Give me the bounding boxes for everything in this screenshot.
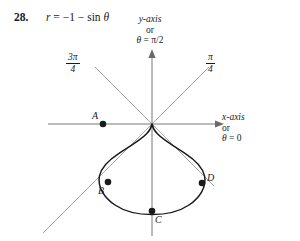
- x-axis-theta-symbol: θ: [222, 133, 227, 143]
- equation-theta-symbol: θ: [104, 11, 110, 23]
- y-axis-theta-symbol: θ: [137, 35, 142, 45]
- ray-label-3pi-over-4-denominator: 4: [66, 64, 80, 75]
- polar-graph-figure: 28. r = −1 − sin θ y-axis or θ = π/2 x-a…: [0, 0, 300, 241]
- point-B-marker: [105, 179, 112, 186]
- equation-operator: = −1 −: [53, 11, 84, 23]
- problem-number: 28.: [14, 11, 28, 24]
- y-axis-label-theta-value: θ = π/2: [112, 35, 188, 46]
- ray-label-pi-over-4-numerator: π: [206, 52, 215, 64]
- equation-variable-r: r: [46, 11, 50, 23]
- x-axis-label-name: x-axis: [222, 112, 245, 122]
- ray-label-pi-over-4-denominator: 4: [206, 64, 215, 75]
- point-label-D: D: [207, 172, 214, 183]
- x-axis-theta-equals: = 0: [229, 133, 241, 143]
- point-label-C: C: [155, 214, 162, 225]
- point-D-marker: [199, 180, 206, 187]
- ray-3pi-over-4: [95, 67, 214, 186]
- x-axis-label-or: or: [222, 123, 284, 134]
- y-axis-label-line1: y-axis: [112, 14, 188, 25]
- point-label-B: B: [98, 185, 104, 196]
- point-A-marker: [100, 121, 107, 128]
- x-axis-label-line1: x-axis: [222, 112, 284, 123]
- ray-label-3pi-over-4-numerator: 3π: [66, 52, 80, 64]
- point-label-A: A: [92, 110, 98, 121]
- y-axis-label: y-axis or θ = π/2: [112, 14, 188, 46]
- x-axis-label-theta-value: θ = 0: [222, 133, 284, 144]
- ray-label-pi-over-4: π 4: [206, 52, 215, 74]
- y-axis-arrowhead: [148, 49, 155, 58]
- polar-equation: r = −1 − sin θ: [46, 11, 109, 24]
- equation-sin-function: sin: [87, 11, 100, 23]
- x-axis-label: x-axis or θ = 0: [222, 112, 284, 144]
- y-axis-theta-equals: = π/2: [144, 35, 164, 45]
- y-axis-label-or: or: [112, 25, 188, 36]
- ray-label-3pi-over-4: 3π 4: [66, 52, 80, 74]
- y-axis-label-name: y-axis: [139, 14, 162, 24]
